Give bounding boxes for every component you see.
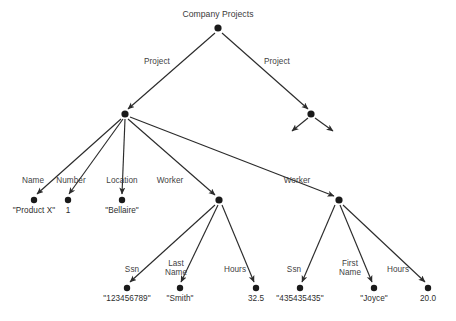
leaf-value-label: 20.0 [420,294,436,303]
tree-node [335,196,342,203]
edge-label: Hours [224,265,246,274]
tree-edge [292,118,308,131]
cropped-caption [0,312,456,321]
edge-label: LastName [165,259,187,278]
edge-label: Ssn [125,265,139,274]
leaf-value-label: "Product X" [13,206,55,215]
tree-leaf-node [65,197,71,203]
nodes-layer [31,24,431,291]
leaf-value-label: 32.5 [248,294,264,303]
root-node-label: Company Projects [182,10,253,19]
tree-leaf-node [253,285,259,291]
tree-edge [302,205,335,282]
edge-label: Ssn [287,265,301,274]
tree-leaf-node [371,285,377,291]
diagram-canvas: Company Projects ProjectProjectNameNumbe… [0,0,456,321]
edge-label: Location [106,176,137,185]
tree-edge [315,118,333,131]
tree-node [215,196,222,203]
leaf-value-label: "123456789" [103,294,150,303]
edge-label: Worker [284,176,311,185]
leaf-value-label: "Smith" [166,294,193,303]
tree-leaf-node [119,197,125,203]
edge-label: Hours [387,265,409,274]
leaf-value-label: "Bellaire" [105,206,139,215]
tree-edge [128,33,215,109]
edges-layer [37,33,425,282]
leaf-value-label: "435435435" [276,294,323,303]
tree-leaf-node [177,285,183,291]
edge-label: Project [144,57,170,66]
edge-label: Worker [157,176,184,185]
leaf-value-label: "Joyce" [360,294,388,303]
tree-node [307,110,314,117]
edge-label: Project [264,57,290,66]
tree-node-root [214,24,221,31]
edge-label: Number [56,176,85,185]
edge-label: Name [22,176,44,185]
leaf-value-label: 1 [66,206,71,215]
tree-leaf-node [425,285,431,291]
tree-leaf-node [31,197,37,203]
edge-label: FirstName [339,259,361,278]
tree-leaf-node [124,285,130,291]
tree-leaf-node [297,285,303,291]
tree-node [121,110,128,117]
tree-edge [222,33,308,109]
